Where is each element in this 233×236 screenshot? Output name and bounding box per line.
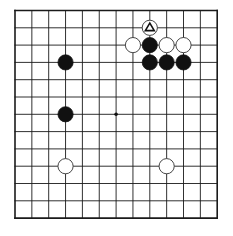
black-stone	[176, 55, 191, 70]
black-stone	[58, 55, 73, 70]
go-board	[0, 0, 233, 236]
black-stone	[142, 55, 157, 70]
white-stone	[159, 38, 174, 53]
white-stone	[125, 38, 140, 53]
white-stone	[58, 159, 73, 174]
black-stone	[159, 55, 174, 70]
white-stone	[142, 20, 157, 35]
black-stone	[142, 38, 157, 53]
black-stone	[58, 107, 73, 122]
star-points	[114, 113, 118, 117]
white-stone	[159, 159, 174, 174]
star-point	[114, 113, 118, 117]
white-stone	[176, 38, 191, 53]
